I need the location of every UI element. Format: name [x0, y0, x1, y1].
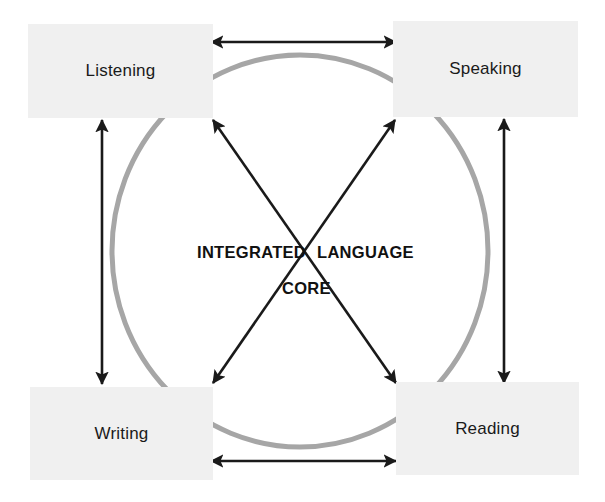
skill-label-speaking: Speaking — [449, 59, 522, 79]
skill-label-writing: Writing — [95, 424, 149, 444]
center-label-core: CORE — [282, 279, 331, 298]
skill-label-listening: Listening — [86, 61, 156, 81]
skill-box-reading: Reading — [396, 382, 579, 475]
diagram-canvas: Listening Speaking Writing Reading INTEG… — [0, 0, 605, 502]
skill-box-writing: Writing — [30, 387, 213, 480]
center-label-integrated: INTEGRATED — [197, 243, 306, 262]
center-label-language: LANGUAGE — [317, 243, 414, 262]
skill-box-listening: Listening — [28, 24, 213, 118]
skill-box-speaking: Speaking — [393, 21, 578, 117]
skill-label-reading: Reading — [455, 419, 520, 439]
